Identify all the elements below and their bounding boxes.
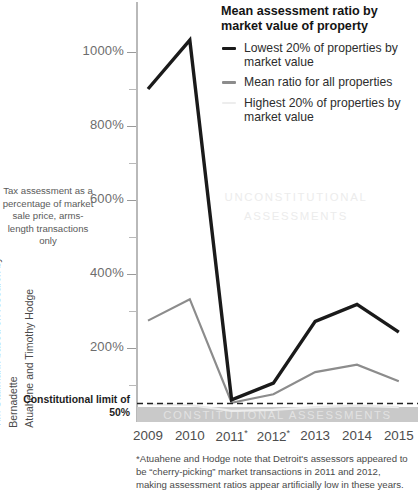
y-axis-tick-label: 800% <box>66 117 124 132</box>
legend-rows: Lowest 20% of properties by market value… <box>221 41 418 125</box>
y-axis-minor-tick <box>129 385 136 386</box>
y-axis-major-tick <box>127 274 136 275</box>
x-axis-labels: 200920102011*2012*201320142015 <box>137 428 418 448</box>
y-axis-minor-tick <box>129 237 136 238</box>
y-axis-tick-label: 400% <box>66 265 124 280</box>
y-axis-minor-tick <box>129 163 136 164</box>
legend-item[interactable]: Mean ratio for all properties <box>221 75 418 89</box>
y-axis-major-tick <box>127 200 136 201</box>
y-axis-major-tick <box>127 52 136 53</box>
legend-item-label: Lowest 20% of properties by market value <box>244 41 418 70</box>
footnote-text: *Atuahene and Hodge note that Detroit's … <box>136 452 414 492</box>
series-line <box>148 299 399 403</box>
legend-line-swatch-icon <box>221 96 238 110</box>
chart-figure: Tim Stallmann based on research by Berna… <box>0 0 418 496</box>
y-axis-tick-label: 1000% <box>66 43 124 58</box>
y-axis-tick-label: 200% <box>66 339 124 354</box>
legend-title: Mean assessment ratio by market value of… <box>221 4 418 34</box>
legend-line-swatch-icon <box>221 75 238 89</box>
y-axis-major-tick <box>127 348 136 349</box>
y-axis-minor-tick <box>129 311 136 312</box>
legend-item-label: Mean ratio for all properties <box>244 75 392 89</box>
legend-item[interactable]: Highest 20% of properties by market valu… <box>221 96 418 125</box>
constitutional-limit-label: Constitutional limit of 50% <box>20 394 130 419</box>
legend-item[interactable]: Lowest 20% of properties by market value <box>221 41 418 70</box>
y-axis-major-tick <box>127 126 136 127</box>
legend: Mean assessment ratio by market value of… <box>221 4 418 131</box>
series-line <box>148 404 399 411</box>
x-axis-tick-label: 2015 <box>369 428 418 443</box>
y-axis-minor-tick <box>129 89 136 90</box>
y-axis-labels: 200%400%600%800%1000% <box>62 0 124 440</box>
y-axis-tick-label: 600% <box>66 191 124 206</box>
legend-line-swatch-icon <box>221 41 238 55</box>
legend-item-label: Highest 20% of properties by market valu… <box>244 96 418 125</box>
